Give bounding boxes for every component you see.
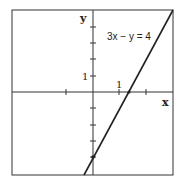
equation-label: 3x − y = 4	[107, 31, 151, 42]
x-tick-label-1: 1	[116, 79, 122, 90]
y-axis-label: y	[79, 12, 87, 25]
x-axis-label: x	[162, 96, 169, 109]
y-tick-label-1: 1	[82, 71, 88, 82]
y-intercept-point	[91, 155, 95, 159]
graph: y x 1 1 3x − y = 4	[0, 0, 181, 187]
x-intercept-point	[128, 91, 131, 94]
